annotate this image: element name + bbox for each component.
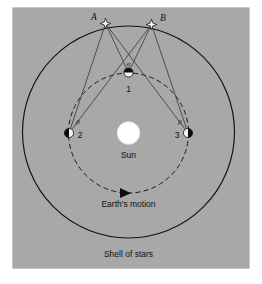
shell-of-stars-label: Shell of stars: [104, 249, 153, 259]
sightline-2-to-A: [69, 24, 106, 134]
earth-marker-2: [64, 128, 73, 137]
angle-label-alpha: α: [127, 60, 131, 68]
earth-label-3: 3: [175, 130, 180, 140]
earth-marker-3: [183, 128, 192, 137]
earth-label-2: 2: [78, 130, 83, 140]
earth-label-1: 1: [126, 84, 131, 94]
sun-disc: [117, 122, 140, 145]
angle-label-beta-right: β: [177, 118, 182, 126]
sightline-2-to-B: [69, 25, 152, 134]
figure-page: A B 1 2 3 α β β Sun Earth's motion Shell…: [0, 0, 262, 284]
orbit-direction-arrow-icon: [120, 188, 131, 198]
earth-motion-label: Earth's motion: [101, 199, 155, 209]
sun-label: Sun: [121, 150, 136, 160]
star-label-B: B: [160, 13, 166, 23]
sightline-1-to-B: [129, 25, 152, 73]
sightline-3-to-A: [106, 24, 189, 134]
sight-lines-group: [69, 24, 188, 134]
earth-marker-1: [124, 68, 133, 77]
star-label-A: A: [90, 12, 97, 22]
sightline-1-to-A: [106, 24, 129, 73]
angle-label-beta-left: β: [75, 118, 80, 126]
parallax-diagram: A B 1 2 3 α β β Sun Earth's motion Shell…: [0, 0, 262, 284]
